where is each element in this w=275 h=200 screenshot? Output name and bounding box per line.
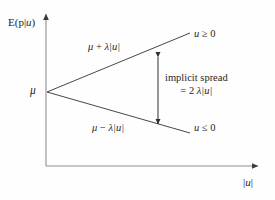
y-axis-title: E(p|u) [8,16,35,28]
implicit-spread-text: implicit spread [165,72,228,83]
spread-abs-u: |u| [201,85,212,96]
x-axis-title: |u| [243,176,253,188]
upper-cond-relation: ≥ 0 [202,28,216,39]
implicit-spread-annotation: implicit spread = 2 λ|u| [165,72,228,97]
upper-branch-equation: μ + λ|u| [88,41,120,53]
mu-intercept-label: μ [30,84,36,97]
lower-cond-relation: ≤ 0 [202,122,216,133]
implicit-spread-formula: = 2 λ|u| [165,85,228,97]
lower-branch-equation: μ − λ|u| [92,122,124,134]
lower-eq-abs-u: |u| [113,122,124,133]
upper-branch-condition: u ≥ 0 [194,28,216,40]
lower-branch-condition: u ≤ 0 [194,122,216,134]
upper-eq-abs-u: |u| [109,41,120,52]
plot-canvas [0,0,275,200]
expected-price-spread-figure: E(p|u) |u| μ μ + λ|u| μ − λ|u| u ≥ 0 u ≤… [0,0,275,200]
